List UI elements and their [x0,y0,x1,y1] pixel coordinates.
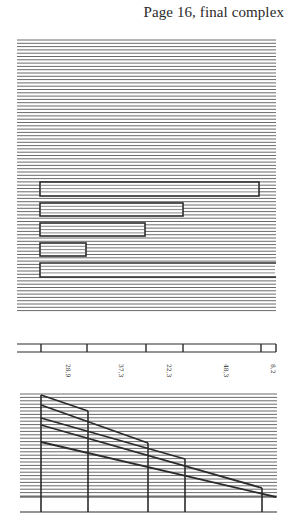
chart-canvas: 28,937,322,348,38,2 [0,0,294,529]
strip-label: 37,3 [118,364,125,378]
value-strip [17,344,276,352]
strip-label: 8,2 [270,364,277,374]
strip-label: 48,3 [223,364,230,378]
bar-chart-bars [40,182,276,277]
line-chart-lines [41,395,276,512]
strip-label: 22,3 [166,364,173,378]
value-strip-labels: 28,937,322,348,38,2 [65,364,277,378]
strip-label: 28,9 [65,364,72,378]
